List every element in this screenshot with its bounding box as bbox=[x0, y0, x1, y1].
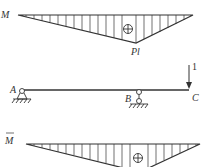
point-b-label: B bbox=[125, 93, 131, 104]
unit-moment-diagram bbox=[26, 144, 200, 167]
unit-moment-diagram-outline bbox=[26, 144, 200, 167]
moment-diagram bbox=[18, 15, 193, 43]
positive-sign-icon bbox=[134, 154, 143, 163]
moment-diagram-outline bbox=[18, 15, 193, 43]
roller-support-b-icon bbox=[129, 90, 148, 109]
point-c-label: C bbox=[192, 92, 199, 103]
moment-diagram-hatching bbox=[26, 15, 184, 43]
peak-moment-label: Pl bbox=[130, 46, 140, 57]
load-label: 1 bbox=[192, 61, 197, 72]
beam bbox=[12, 65, 192, 108]
structural-diagram: M Pl bbox=[0, 0, 202, 167]
positive-sign-icon bbox=[124, 25, 133, 34]
unit-moment-label: M bbox=[4, 135, 14, 146]
unit-moment-diagram-hatching bbox=[34, 144, 196, 167]
moment-label: M bbox=[0, 9, 10, 20]
point-a-label: A bbox=[9, 84, 17, 95]
